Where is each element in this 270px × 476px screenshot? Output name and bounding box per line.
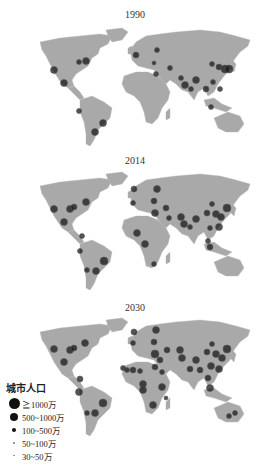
city-marker bbox=[177, 347, 184, 354]
city-marker bbox=[80, 234, 85, 239]
city-marker bbox=[142, 241, 149, 248]
city-marker bbox=[189, 87, 194, 92]
city-marker bbox=[193, 357, 200, 364]
city-marker bbox=[61, 359, 68, 366]
city-marker bbox=[225, 65, 233, 73]
city-marker bbox=[82, 340, 89, 347]
city-marker bbox=[182, 82, 189, 89]
city-marker bbox=[152, 210, 159, 217]
city-marker bbox=[197, 367, 203, 373]
legend-item-100-500: 100~500万 bbox=[6, 423, 96, 436]
city-marker bbox=[204, 349, 210, 355]
city-marker bbox=[193, 77, 200, 84]
city-marker bbox=[125, 368, 130, 373]
city-marker bbox=[131, 329, 137, 335]
city-marker bbox=[168, 66, 173, 71]
city-marker bbox=[134, 230, 141, 237]
city-marker bbox=[210, 62, 215, 67]
world-map-1990 bbox=[36, 22, 262, 146]
city-marker bbox=[208, 226, 213, 231]
city-marker bbox=[61, 219, 68, 226]
city-marker bbox=[223, 204, 231, 212]
legend-title: 城市人口 bbox=[6, 380, 96, 395]
city-marker bbox=[178, 214, 185, 221]
city-marker bbox=[219, 355, 226, 362]
legend-item-30-50: 30~50万 bbox=[6, 449, 96, 462]
city-marker bbox=[131, 341, 136, 346]
city-marker bbox=[206, 239, 211, 244]
city-marker bbox=[85, 268, 90, 273]
city-marker bbox=[131, 201, 136, 206]
city-marker bbox=[150, 402, 157, 409]
city-marker bbox=[153, 327, 160, 334]
map-panel-2014: 2014 bbox=[0, 150, 270, 300]
city-marker bbox=[151, 350, 159, 358]
legend-item-over-1000: ≧1000万 bbox=[6, 397, 96, 410]
city-marker bbox=[218, 214, 225, 221]
city-marker bbox=[51, 206, 58, 213]
city-marker bbox=[100, 257, 108, 265]
legend-label: 100~500万 bbox=[22, 424, 61, 436]
city-marker bbox=[167, 216, 172, 221]
city-marker bbox=[193, 216, 200, 223]
city-marker bbox=[164, 396, 168, 400]
city-marker bbox=[205, 375, 211, 381]
circle-xl-icon bbox=[9, 398, 20, 409]
city-marker bbox=[100, 120, 107, 127]
city-marker bbox=[210, 202, 215, 207]
circle-xs-icon bbox=[13, 455, 15, 457]
city-marker bbox=[163, 205, 169, 211]
legend-item-500-1000: 500~1000万 bbox=[6, 410, 96, 423]
city-marker bbox=[93, 268, 100, 275]
city-marker bbox=[164, 347, 170, 353]
circle-sm-icon bbox=[13, 442, 15, 444]
city-marker bbox=[154, 186, 161, 193]
city-marker bbox=[71, 345, 77, 351]
legend-item-50-100: 50~100万 bbox=[6, 436, 96, 449]
city-marker bbox=[78, 249, 83, 254]
city-marker bbox=[71, 204, 77, 210]
city-marker bbox=[208, 363, 215, 370]
city-marker bbox=[61, 80, 68, 87]
city-marker bbox=[223, 345, 231, 353]
city-marker bbox=[51, 346, 58, 353]
city-marker bbox=[179, 355, 186, 362]
city-marker bbox=[159, 384, 166, 391]
legend-label: 50~100万 bbox=[22, 437, 57, 449]
city-marker bbox=[157, 357, 163, 363]
city-marker bbox=[99, 399, 107, 407]
city-marker bbox=[181, 221, 188, 228]
city-marker bbox=[218, 87, 223, 92]
city-marker bbox=[213, 351, 220, 358]
circle-lg-icon bbox=[10, 413, 18, 421]
legend-label: 500~1000万 bbox=[22, 411, 65, 423]
city-marker bbox=[77, 109, 82, 114]
year-label-2014: 2014 bbox=[0, 155, 270, 166]
city-marker bbox=[203, 86, 209, 92]
city-marker bbox=[83, 58, 90, 65]
city-marker bbox=[187, 366, 193, 372]
city-marker bbox=[152, 61, 156, 65]
city-marker bbox=[233, 411, 238, 416]
circle-md-icon bbox=[12, 428, 16, 432]
city-marker bbox=[151, 339, 157, 345]
legend-label: ≧1000万 bbox=[22, 398, 57, 410]
world-map-2014 bbox=[36, 166, 262, 290]
city-marker bbox=[92, 129, 99, 136]
city-marker bbox=[207, 385, 214, 392]
city-marker bbox=[130, 367, 136, 373]
map-panel-1990: 1990 bbox=[0, 0, 270, 150]
city-marker bbox=[152, 262, 157, 267]
city-marker bbox=[211, 80, 216, 85]
city-marker bbox=[77, 60, 82, 65]
city-marker bbox=[131, 186, 137, 192]
city-marker bbox=[204, 210, 210, 216]
city-marker bbox=[154, 72, 159, 77]
city-marker bbox=[51, 67, 58, 74]
city-marker bbox=[155, 48, 160, 53]
city-marker bbox=[216, 224, 223, 231]
population-legend: 城市人口 ≧1000万 500~1000万 100~500万 50~100万 3… bbox=[6, 380, 96, 462]
city-marker bbox=[151, 198, 157, 204]
legend-label: 30~50万 bbox=[22, 450, 53, 462]
city-marker bbox=[83, 199, 90, 206]
